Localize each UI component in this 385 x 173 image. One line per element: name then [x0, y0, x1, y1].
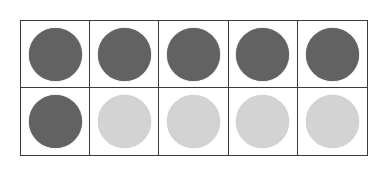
filled-counter-icon: [167, 28, 220, 81]
filled-counter-icon: [306, 28, 359, 81]
frame-cell: [90, 88, 159, 155]
frame-cell: [298, 21, 367, 88]
frame-cell: [159, 88, 228, 155]
empty-counter-icon: [98, 95, 151, 148]
frame-cell: [298, 88, 367, 155]
filled-counter-icon: [98, 28, 151, 81]
filled-counter-icon: [236, 28, 289, 81]
frame-cell: [229, 88, 298, 155]
empty-counter-icon: [167, 95, 220, 148]
frame-cell: [90, 21, 159, 88]
empty-counter-icon: [306, 95, 359, 148]
empty-counter-icon: [236, 95, 289, 148]
frame-cell: [21, 88, 90, 155]
frame-cell: [159, 21, 228, 88]
ten-frame: [20, 20, 368, 156]
filled-counter-icon: [29, 95, 82, 148]
filled-counter-icon: [29, 28, 82, 81]
frame-cell: [229, 21, 298, 88]
frame-cell: [21, 21, 90, 88]
